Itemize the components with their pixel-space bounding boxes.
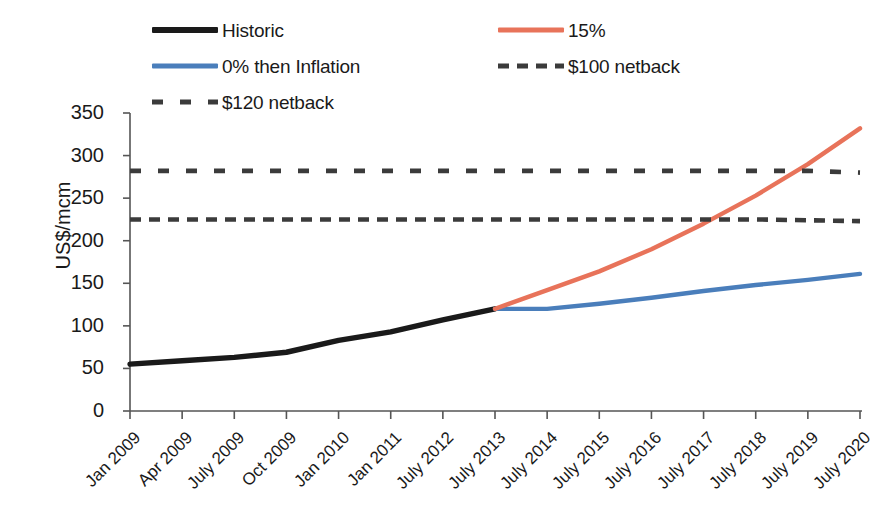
series-line-100-netback: [130, 219, 860, 221]
chart-container: Historic 0% then Inflation $120 netback …: [0, 0, 890, 521]
plot-area: US$/mcm 050100150200250300350 Jan 2009Ap…: [0, 0, 890, 521]
series-line-historic: [130, 309, 495, 364]
chart-svg: [0, 0, 890, 521]
series-line-120-netback: [130, 171, 860, 173]
chart-axes: [123, 113, 862, 419]
chart-series: [130, 128, 860, 364]
